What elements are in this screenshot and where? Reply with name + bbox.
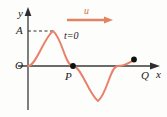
point-marker-p xyxy=(70,63,76,69)
time-label: t=0 xyxy=(64,31,79,41)
wave-diagram-svg xyxy=(0,0,167,117)
wave-speed-label: u xyxy=(84,6,89,16)
point-label-p: P xyxy=(65,71,72,82)
y-axis-arrowhead xyxy=(25,7,32,16)
x-axis xyxy=(18,63,160,70)
wave-figure: y A O x P Q u t=0 xyxy=(0,0,167,117)
point-label-q: Q xyxy=(141,70,149,81)
y-axis-label: y xyxy=(18,8,23,19)
propagation-arrow xyxy=(67,17,113,24)
propagation-arrowhead xyxy=(104,17,113,24)
origin-label: O xyxy=(15,60,23,71)
point-marker-q xyxy=(131,57,137,63)
x-axis-label: x xyxy=(156,69,161,80)
amplitude-label: A xyxy=(16,25,23,36)
y-axis xyxy=(25,7,32,110)
